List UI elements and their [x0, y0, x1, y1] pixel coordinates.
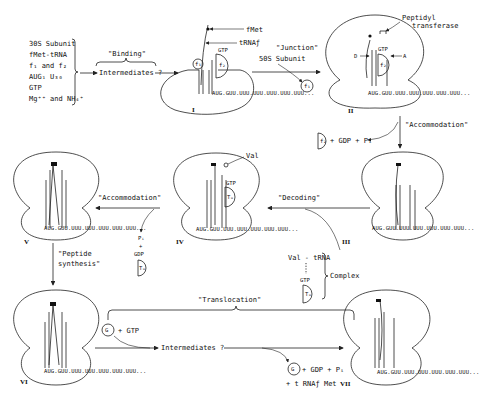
svg-text:+: +: [139, 243, 143, 249]
svg-text:VII: VII: [340, 380, 351, 388]
svg-text:II: II: [348, 107, 354, 115]
svg-text:IV: IV: [176, 238, 184, 246]
svg-text:fMet: fMet: [246, 26, 263, 34]
svg-text:transferase: transferase: [412, 22, 458, 30]
svg-text:tRNAƒ: tRNAƒ: [239, 39, 260, 47]
svg-text:Pᵢ: Pᵢ: [138, 235, 145, 241]
step-junction: "Junction": [276, 44, 318, 52]
reactant-mrna: AUG₁ U₃₀: [29, 73, 63, 81]
complex-vi: AUG.GUU.UUU.UUU.UUU.UUU.UUU... VI: [14, 290, 147, 386]
step-accommodation-2: "Accommodation": [98, 194, 161, 202]
intermediates-2: Intermediates ?: [161, 344, 224, 352]
complex-ii: Peptidyl transferase D GTP f₂ A AUG.GUU.…: [326, 14, 471, 115]
reactant-list: 30S Subunit fMet-tRNA f₁ and f₂ AUG₁ U₃₀…: [29, 39, 84, 105]
svg-text:D: D: [354, 53, 357, 59]
fmet-dot: [206, 27, 209, 30]
translocation-brace: [108, 306, 354, 320]
trna-release: + t RNAƒ Met: [286, 380, 337, 388]
svg-text:V: V: [24, 238, 29, 246]
reactant-30s: 30S Subunit: [29, 40, 75, 48]
val-trna: Val - tRNA: [288, 254, 331, 262]
mrna-ii: AUG.GUU.UUU.UUU.UUU.UUU.UUU...: [368, 90, 470, 96]
step-decoding: "Decoding": [278, 194, 320, 202]
reactant-f1-f2: f₁ and f₂: [29, 62, 67, 70]
step-accommodation-1: "Accommodation": [405, 121, 468, 129]
svg-text:GTP: GTP: [378, 46, 389, 52]
svg-text:GTP: GTP: [226, 180, 237, 186]
svg-text:GTP: GTP: [300, 277, 311, 283]
fmet-trna-strand: [201, 25, 208, 85]
svg-text:Tᵤ: Tᵤ: [139, 265, 146, 271]
f2-release-products: + GDP + Pᵢ: [330, 137, 372, 145]
complex-iii: AUG.GUU.UUU.UUU.UUU.UUU.UUU... III: [342, 152, 474, 246]
reactant-fmet-trna: fMet-tRNA: [29, 51, 68, 59]
svg-text:f₂: f₂: [380, 62, 387, 68]
label-complex: Complex: [330, 272, 360, 280]
mrna-i: AUG.GUU.UUU.UUU.UUU.UUU.UUU...: [212, 90, 314, 96]
svg-text:GTP: GTP: [218, 47, 229, 53]
complex-vii: AUG.GUU.UUU.UUU.UUU.UUU.UUU... VII: [340, 290, 479, 388]
svg-text:Val: Val: [246, 152, 259, 160]
svg-text:f₁: f₁: [304, 83, 311, 89]
mrna-vi: AUG.GUU.UUU.UUU.UUU.UUU.UUU...: [44, 368, 146, 374]
g-release-products: + GDP + Pᵢ: [302, 366, 344, 374]
complex-i: fMet tRNAƒ GTP f₂ f₁ AUG.GUU.UUU.UUU.UUU…: [161, 25, 315, 114]
step-peptide-synthesis-2: synthesis": [58, 260, 100, 268]
svg-text:Tᵤ: Tᵤ: [227, 194, 234, 200]
mrna-iv: AUG.GUU.UUU.UUU.UUU.UUU.UUU...: [196, 226, 298, 232]
g-plus-gtp: + GTP: [118, 327, 139, 335]
svg-text:III: III: [342, 238, 350, 246]
mrna-iii: AUG.GUU.UUU.UUU.UUU.UUU.UUU...: [372, 225, 474, 231]
svg-text:A: A: [403, 53, 407, 59]
binding-brace: [96, 58, 156, 66]
reactant-ions: Mg⁺⁺ and NH₄⁺: [29, 95, 84, 103]
svg-text:Tᵤ: Tᵤ: [305, 291, 312, 297]
svg-text:f₂: f₂: [320, 138, 327, 144]
mrna-vii: AUG.GUU.UUU.UUU.UUU.UUU.UUU...: [377, 369, 479, 375]
label-50s: 50S Subunit: [259, 55, 305, 63]
svg-text:G: G: [105, 327, 108, 333]
svg-text:VI: VI: [20, 378, 28, 386]
step-binding: "Binding": [108, 50, 146, 58]
svg-text:GDP: GDP: [134, 251, 145, 257]
intermediates-1: Intermediates ?: [99, 69, 162, 77]
mrna-v: AUG.GUU.UUU.UUU.UUU.UUU.UUU...: [44, 225, 146, 231]
reactant-gtp: GTP: [29, 84, 42, 92]
svg-text:Peptidyl: Peptidyl: [402, 14, 436, 22]
ribosome-cycle-diagram: 30S Subunit fMet-tRNA f₁ and f₂ AUG₁ U₃₀…: [0, 0, 479, 399]
svg-text:f₁: f₁: [195, 61, 202, 67]
svg-text:G: G: [291, 366, 294, 372]
step-translocation: "Translocation": [198, 296, 261, 304]
step-peptide-synthesis-1: "Peptide: [58, 250, 92, 258]
svg-text:I: I: [192, 106, 195, 114]
svg-text:f₂: f₂: [219, 62, 226, 68]
